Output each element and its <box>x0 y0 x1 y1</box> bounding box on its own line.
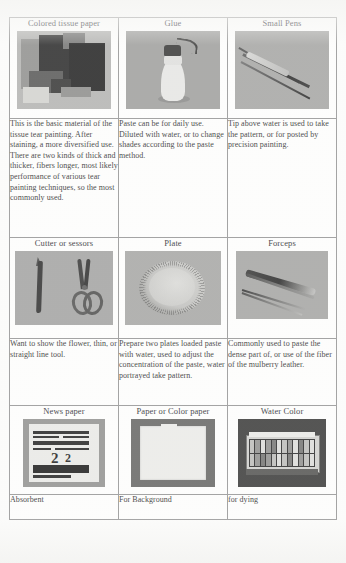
cutter-and-scissors-photo <box>15 251 113 325</box>
thumbnail-wrap <box>228 31 336 109</box>
scanned-page: Colored tissue paper Glue <box>0 0 346 563</box>
description-water-color: for dying <box>228 495 336 506</box>
cell-image-plate: Plate <box>119 238 228 339</box>
cell-image-paper-or-color-paper: Paper or Color paper <box>119 406 228 495</box>
description-news-paper: Absorbent <box>10 495 118 506</box>
cell-text-plate: Prepare two plates loaded paste with wat… <box>119 339 228 406</box>
description-forceps: Commonly used to paste the dense part of… <box>228 339 336 371</box>
table-row: Absorbent For Background for dying <box>10 495 337 520</box>
thumbnail-wrap <box>119 31 227 109</box>
blank-paper-photo <box>131 419 215 487</box>
cell-image-glue: Glue <box>119 18 228 119</box>
cell-image-colored-tissue-paper: Colored tissue paper <box>10 18 119 119</box>
cell-text-news-paper: Absorbent <box>10 495 119 520</box>
description-paper-or-color-paper: For Background <box>119 495 227 506</box>
forceps-photo <box>236 251 328 319</box>
thumbnail-wrap <box>228 251 336 319</box>
caption-water-color: Water Color <box>228 406 336 417</box>
table-row: Cutter or sessors Plate <box>10 238 337 339</box>
description-small-pens: Tip above water is used to take the patt… <box>228 119 336 151</box>
water-color-palette-photo <box>238 419 326 487</box>
cell-text-glue: Paste can be for daily use. Diluted with… <box>119 119 228 238</box>
small-pens-photo <box>235 31 329 109</box>
table-row: News paper 2 2 <box>10 406 337 495</box>
caption-cutter-or-sessors: Cutter or sessors <box>10 238 118 249</box>
cell-image-cutter-or-sessors: Cutter or sessors <box>10 238 119 339</box>
cell-text-small-pens: Tip above water is used to take the patt… <box>228 119 337 238</box>
cell-text-cutter-or-sessors: Want to show the flower, thin, or straig… <box>10 339 119 406</box>
cell-text-colored-tissue-paper: This is the basic material of the tissue… <box>10 119 119 238</box>
description-glue: Paste can be for daily use. Diluted with… <box>119 119 227 161</box>
thumbnail-wrap <box>119 251 227 325</box>
thumbnail-wrap <box>10 251 118 325</box>
caption-small-pens: Small Pens <box>228 18 336 29</box>
description-colored-tissue-paper: This is the basic material of the tissue… <box>10 119 118 204</box>
plate-photo <box>125 251 221 325</box>
description-plate: Prepare two plates loaded paste with wat… <box>119 339 227 381</box>
caption-forceps: Forceps <box>228 238 336 249</box>
cell-image-news-paper: News paper 2 2 <box>10 406 119 495</box>
thumbnail-wrap <box>10 31 118 109</box>
caption-colored-tissue-paper: Colored tissue paper <box>10 18 118 29</box>
thumbnail-wrap: 2 2 <box>10 419 118 487</box>
cell-image-water-color: Water Color <box>228 406 337 495</box>
materials-table: Colored tissue paper Glue <box>9 17 337 520</box>
cell-text-paper-or-color-paper: For Background <box>119 495 228 520</box>
caption-glue: Glue <box>119 18 227 29</box>
colored-tissue-paper-photo <box>17 31 111 109</box>
caption-plate: Plate <box>119 238 227 249</box>
thumbnail-wrap <box>228 419 336 487</box>
cell-image-forceps: Forceps <box>228 238 337 339</box>
cell-text-forceps: Commonly used to paste the dense part of… <box>228 339 337 406</box>
table-row: Colored tissue paper Glue <box>10 18 337 119</box>
thumbnail-wrap <box>119 419 227 487</box>
table-row: Want to show the flower, thin, or straig… <box>10 339 337 406</box>
table-row: This is the basic material of the tissue… <box>10 119 337 238</box>
caption-news-paper: News paper <box>10 406 118 417</box>
glue-bottle-photo <box>126 31 220 109</box>
description-cutter-or-sessors: Want to show the flower, thin, or straig… <box>10 339 118 360</box>
newspaper-photo: 2 2 <box>23 419 105 487</box>
cell-image-small-pens: Small Pens <box>228 18 337 119</box>
cell-text-water-color: for dying <box>228 495 337 520</box>
caption-paper-or-color-paper: Paper or Color paper <box>119 406 227 417</box>
